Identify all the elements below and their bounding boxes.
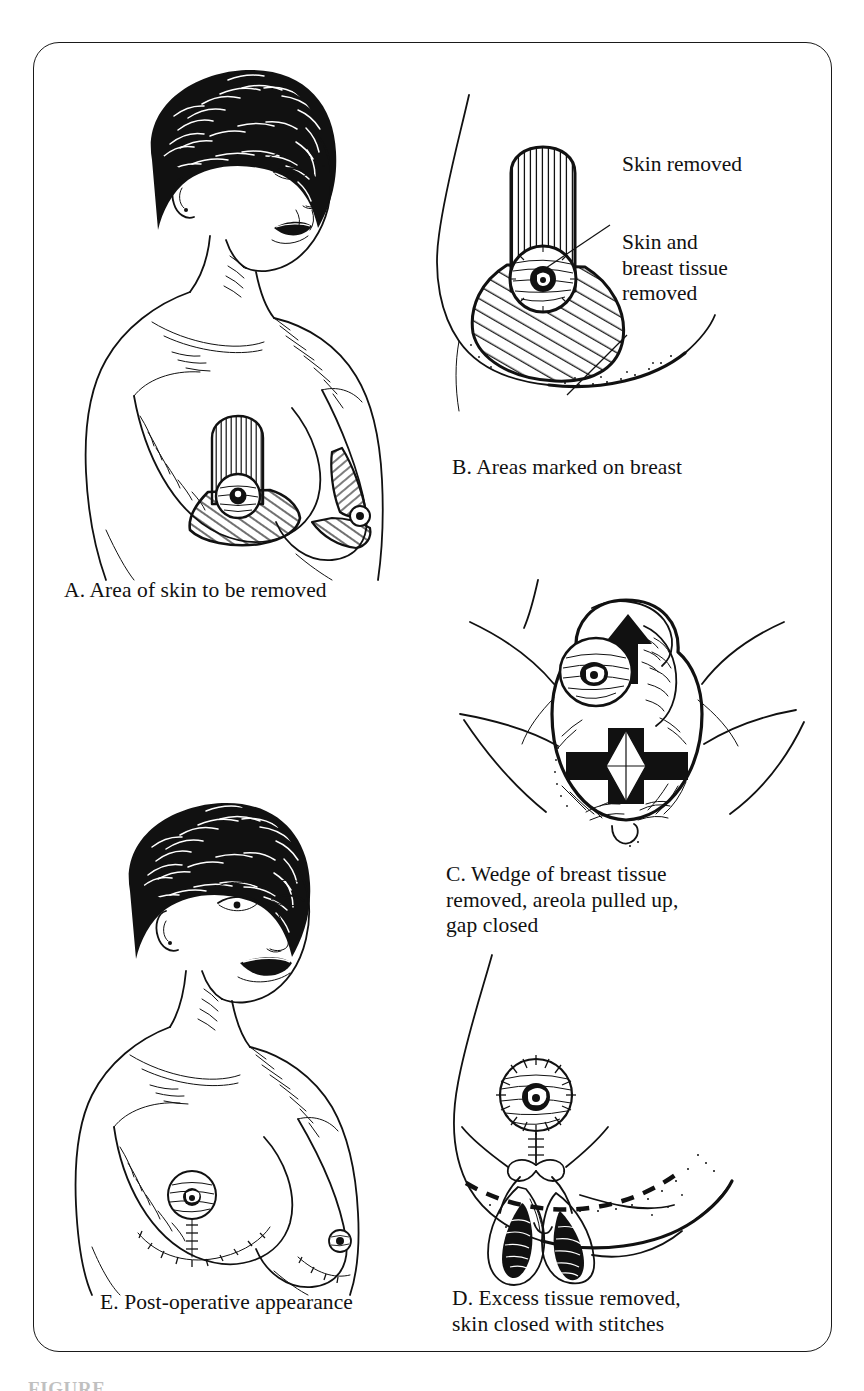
panel-a-caption: A. Area of skin to be removed: [64, 578, 464, 604]
callout-skin-removed: Skin removed: [622, 152, 842, 178]
figure-label: FIGURE: [28, 1378, 106, 1391]
panel-b-caption: B. Areas marked on breast: [452, 455, 822, 481]
panel-e-illustration: [62, 795, 422, 1295]
callout-skin-and-breast-tissue-removed: Skin and breast tissue removed: [622, 230, 822, 307]
panel-a-artwork: [60, 60, 430, 580]
panel-d-artwork: [430, 955, 820, 1285]
panel-d-caption: D. Excess tissue removed, skin closed wi…: [452, 1286, 832, 1337]
panel-a-illustration: [60, 60, 430, 580]
panel-c-artwork: [430, 580, 820, 865]
panel-c-illustration: [430, 580, 820, 865]
panel-c-caption: C. Wedge of breast tissue removed, areol…: [446, 862, 826, 939]
panel-e-artwork: [62, 795, 422, 1295]
dashed-marking-line: [466, 1173, 678, 1210]
figure-page: A. Area of skin to be removed: [0, 0, 864, 1391]
panel-d-illustration: [430, 955, 820, 1285]
panel-e-caption: E. Post-operative appearance: [100, 1290, 480, 1316]
